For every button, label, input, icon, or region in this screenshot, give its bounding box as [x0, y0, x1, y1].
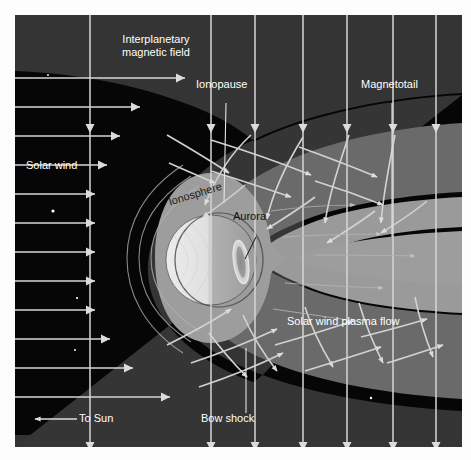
diagram-canvas: Interplanetary magnetic field Ionopause …: [15, 15, 462, 447]
label-solar-wind: Solar wind: [26, 159, 77, 171]
label-interplanetary-line2: magnetic field: [122, 46, 190, 58]
label-solar-wind-plasma-flow: Solar wind plasma flow: [287, 315, 400, 327]
label-ionopause: Ionopause: [196, 78, 247, 90]
star: [47, 74, 49, 76]
label-to-sun: To Sun: [79, 412, 113, 424]
label-aurora: Aurora: [233, 210, 266, 222]
label-interplanetary-line1: Interplanetary: [122, 33, 189, 45]
star: [370, 397, 372, 399]
star: [76, 297, 78, 299]
star: [74, 349, 76, 351]
label-bow-shock: Bow shock: [201, 412, 254, 424]
label-interplanetary-magnetic-field: Interplanetary magnetic field: [96, 33, 216, 59]
star: [51, 209, 54, 212]
figure-root: Interplanetary magnetic field Ionopause …: [0, 0, 471, 460]
label-magnetotail: Magnetotail: [361, 78, 418, 90]
